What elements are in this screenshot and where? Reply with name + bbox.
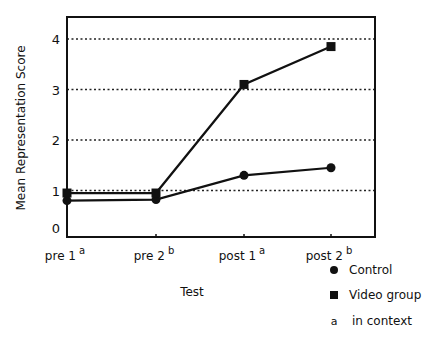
line-chart: 01234 pre 1apre 2bpost 1apost 2b Mean Re… (0, 0, 433, 346)
y-tick-label: 2 (52, 133, 60, 148)
x-axis-ticks: pre 1apre 2bpost 1apost 2b (45, 234, 353, 263)
legend-label: Video group (349, 288, 421, 302)
y-axis-ticks: 01234 (52, 32, 60, 236)
legend-circle-icon (330, 266, 338, 274)
legend-label: in context (352, 314, 412, 328)
y-axis-label: Mean Representation Score (14, 45, 28, 210)
square-marker (152, 189, 161, 198)
square-marker (240, 80, 249, 89)
x-tick-label: post 2b (306, 245, 353, 263)
x-tick-label: pre 1a (45, 245, 85, 263)
y-tick-label: 4 (52, 32, 60, 47)
legend-label: Control (349, 263, 392, 277)
x-axis-label: Test (179, 285, 204, 299)
square-marker (63, 189, 72, 198)
data-series (63, 42, 336, 205)
y-tick-label: 1 (52, 184, 60, 199)
circle-marker (327, 163, 336, 172)
x-tick-label: pre 2b (134, 245, 174, 263)
y-tick-label: 3 (52, 83, 60, 98)
circle-marker (240, 171, 249, 180)
series-line-control (67, 168, 331, 201)
y-tick-label: 0 (52, 221, 60, 236)
legend-footnote-mark: a (331, 315, 338, 328)
legend-square-icon (330, 291, 338, 299)
square-marker (327, 42, 336, 51)
x-tick-label: post 1a (219, 245, 266, 263)
legend: ControlVideo groupain context (330, 263, 421, 328)
